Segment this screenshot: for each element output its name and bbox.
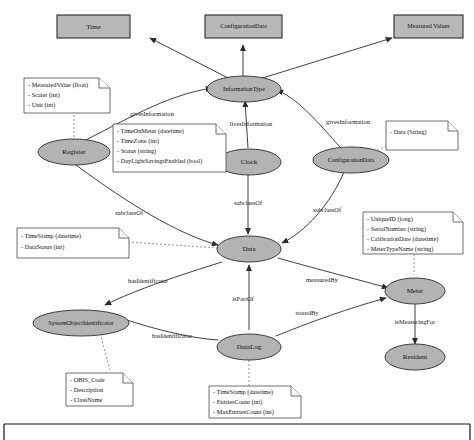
systemobjectidentificator-note-line-0: - OBIS_Code xyxy=(70,376,105,383)
systemobjectidentificator-note-line-1: - Description xyxy=(70,386,104,393)
data-note-fold xyxy=(119,228,129,238)
node-datalog[interactable]: DataLog xyxy=(217,334,281,360)
ontology-diagram: Time ConfigurationData Measured Values I… xyxy=(0,0,474,440)
configurationdata-note-box xyxy=(386,121,458,150)
data-note-line-0: - TimeStamp (datetime) xyxy=(21,232,81,240)
measuredvalues-box-label: Measured Values xyxy=(407,22,450,29)
note-meter: - UniqueID (long) - SerialNumber (string… xyxy=(363,212,463,254)
informationtype-label: InformationType xyxy=(223,85,265,92)
note-systemobjectidentificator: - OBIS_Code - Description - ClassName xyxy=(66,373,133,406)
meter-note-line-2: - CalibrationDate (datetime) xyxy=(367,235,438,243)
edge-datalog-meter xyxy=(276,298,386,336)
configurationdata-note-line-0: - Data (String) xyxy=(390,128,427,136)
label-register-subclass-of: subclassOf xyxy=(115,209,144,216)
register-note-line-1: - Scaler (int) xyxy=(28,91,60,99)
datalog-note-line-0: - TimeStamp (datetime) xyxy=(213,388,273,396)
node-data[interactable]: Data xyxy=(217,236,281,262)
edge-informationtype-measuredvalues xyxy=(256,38,392,80)
datalog-note-line-2: - MaxEntriesCount (int) xyxy=(213,408,274,416)
data-label: Data xyxy=(242,245,256,253)
node-systemobjectidentificator[interactable]: SystemObjectIdentificator xyxy=(33,310,129,336)
meter-label: Meter xyxy=(407,287,424,295)
node-informationtype[interactable]: InformationType xyxy=(207,76,281,102)
diagram-canvas: Time ConfigurationData Measured Values I… xyxy=(0,0,474,440)
datalog-note-line-1: - EntriesCount (int) xyxy=(213,398,262,406)
clock-note-fold xyxy=(216,124,226,134)
label-data-has-identificator: hasIdentificator xyxy=(128,277,169,284)
meter-note-line-1: - SerialNumber (string) xyxy=(367,225,426,233)
clock-note-line-1: - TimeZone (int) xyxy=(117,137,159,145)
note-clock: - TimeOnMeter (datetime) - TimeZone (int… xyxy=(113,124,226,172)
time-box-label: Time xyxy=(86,23,101,31)
datalog-note-fold xyxy=(291,386,301,396)
label-configuration-subclass-of: subclassOf xyxy=(313,206,342,213)
datalog-label: DataLog xyxy=(237,343,262,351)
register-note-line-2: - Unit (int) xyxy=(28,101,55,109)
label-data-log-has-identificator: hasIdentificator xyxy=(152,332,193,339)
edge-informationtype-time xyxy=(150,38,232,80)
node-meter[interactable]: Meter xyxy=(385,278,445,304)
note-register: - MeasuredValue (float) - Scaler (int) -… xyxy=(24,78,110,113)
top-box-configurationdata[interactable]: ConfigurationData xyxy=(205,15,282,38)
resident-label: Resident xyxy=(403,353,428,361)
node-register[interactable]: Register xyxy=(38,139,110,165)
label-clock-gives-information: livesInformation xyxy=(230,120,273,127)
label-clock-subclass-of: subclassOf xyxy=(234,199,263,206)
clock-note-line-3: - DayLightSavingsEnabled (bool) xyxy=(117,157,202,165)
label-configuration-gives-information: givesInformation xyxy=(326,118,371,125)
clock-note-line-0: - TimeOnMeter (datetime) xyxy=(117,127,184,135)
configurationdata-label: ConfigurationData xyxy=(328,156,375,163)
notelink-data xyxy=(128,242,218,248)
top-box-measuredvalues[interactable]: Measured Values xyxy=(394,15,463,38)
meter-note-line-3: - MeterTypeName (string) xyxy=(367,245,433,253)
label-register-gives-information: givesInformation xyxy=(130,110,175,117)
label-data-log-stored-by: storedBy xyxy=(295,309,319,316)
note-configurationdata: - Data (String) xyxy=(386,121,458,150)
node-resident[interactable]: Resident xyxy=(385,344,445,370)
bottom-frame xyxy=(4,424,470,440)
configurationdata-note-fold xyxy=(448,121,458,131)
label-data-measured-by: measuredBy xyxy=(306,276,339,283)
systemobjectidentificator-note-line-2: - ClassName xyxy=(70,396,103,403)
register-note-line-0: - MeasuredValue (float) xyxy=(28,81,88,89)
clock-label: Clock xyxy=(241,158,258,166)
node-clock[interactable]: Clock xyxy=(217,149,281,175)
systemobjectidentificator-note-fold xyxy=(123,373,133,383)
meter-note-fold xyxy=(453,212,463,222)
note-data: - TimeStamp (datetime) - DataStatus (int… xyxy=(17,228,129,258)
register-label: Register xyxy=(62,148,86,156)
meter-note-line-0: - UniqueID (long) xyxy=(367,215,413,223)
note-datalog: - TimeStamp (datetime) - EntriesCount (i… xyxy=(209,386,301,418)
node-configurationdata[interactable]: ConfigurationData xyxy=(313,147,389,173)
configurationdata-box-label: ConfigurationData xyxy=(220,22,267,29)
systemobjectidentificator-label: SystemObjectIdentificator xyxy=(48,319,113,326)
label-meter-is-measuring-for: isMeasuringFor xyxy=(395,318,436,325)
clock-note-line-2: - Status (string) xyxy=(117,147,156,155)
label-data-is-part-of: isPartOf xyxy=(232,295,254,302)
edge-data-meter xyxy=(278,258,388,288)
data-note-line-1: - DataStatus (int) xyxy=(21,243,64,251)
top-box-time[interactable]: Time xyxy=(57,15,130,38)
